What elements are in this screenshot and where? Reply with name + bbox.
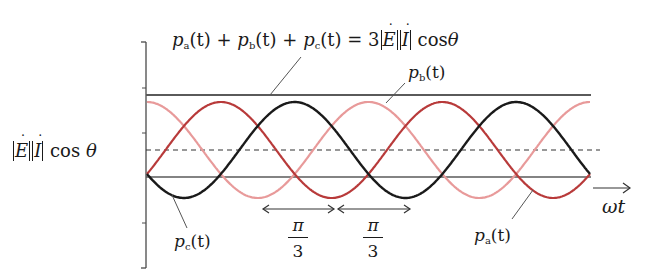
total-power-equation: pa(t) + pb(t) + pc(t) = 3EI cosθ (172, 30, 459, 50)
interval-arrow-1 (263, 205, 334, 213)
pa-subscript: a (184, 40, 190, 51)
abs-bar (400, 30, 401, 50)
interval-1-label: π 3 (288, 215, 308, 261)
abs-bar (29, 141, 30, 161)
cos-function: cos (50, 140, 80, 161)
pc-symbol: p (303, 29, 315, 50)
abs-bar (381, 30, 382, 50)
x-axis-label: ωt (602, 197, 625, 216)
pc-subscript: c (315, 40, 321, 51)
t-arg: (t) (491, 225, 511, 245)
coefficient: 3 (368, 29, 379, 50)
pi-symbol: π (363, 215, 383, 238)
x-axis-arrow (593, 183, 630, 193)
I-phasor: I (402, 31, 409, 49)
pa-label: pa(t) (474, 227, 511, 244)
theta-symbol: θ (86, 140, 97, 161)
pc-subscript: c (185, 241, 191, 252)
pc-label: pc(t) (174, 233, 211, 250)
pc-symbol: p (174, 231, 185, 251)
abs-bar (397, 30, 398, 50)
average-power-label: EI cos θ (12, 141, 97, 161)
E-phasor: E (15, 142, 28, 160)
abs-bar (32, 141, 33, 161)
pb-subscript: b (249, 40, 255, 51)
I-phasor: I (34, 142, 41, 160)
E-phasor: E (383, 31, 396, 49)
pb-symbol: p (237, 29, 249, 50)
t-arg: (t) (191, 231, 211, 251)
t-arg: (t) (320, 29, 341, 50)
pa-subscript: a (485, 235, 491, 246)
plus-sign: + (282, 29, 297, 50)
t-arg: (t) (255, 29, 276, 50)
pb-symbol: p (408, 62, 419, 82)
abs-bar (13, 141, 14, 161)
pa-symbol: p (172, 29, 184, 50)
plus-sign: + (217, 29, 232, 50)
t-arg: (t) (190, 29, 211, 50)
pb-label: pb(t) (408, 64, 445, 81)
theta-symbol: θ (448, 29, 459, 50)
total-pointer-line (270, 57, 301, 95)
pc-pointer-line (172, 195, 187, 228)
pb-pointer-line (386, 83, 405, 103)
t-arg: (t) (425, 62, 445, 82)
cos-function: cos (418, 29, 448, 50)
equals-sign: = (347, 29, 362, 50)
interval-arrow-2 (338, 205, 410, 213)
pb-subscript: b (419, 72, 425, 83)
interval-2-label: π 3 (363, 215, 383, 261)
pa-pointer-line (512, 190, 533, 219)
denominator: 3 (363, 238, 383, 261)
pa-symbol: p (474, 225, 485, 245)
pi-symbol: π (288, 215, 308, 238)
denominator: 3 (288, 238, 308, 261)
